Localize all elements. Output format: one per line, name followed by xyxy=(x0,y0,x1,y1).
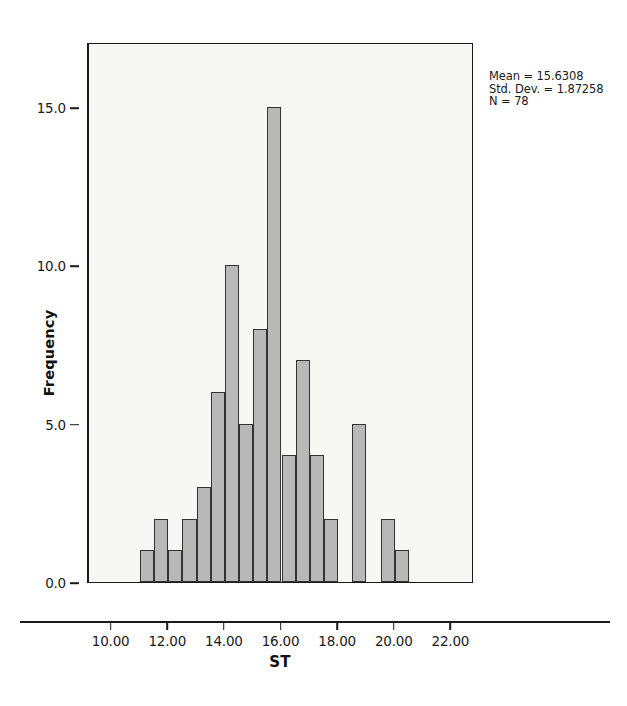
x-tick-label: 10.00 xyxy=(92,633,130,649)
histogram-bar xyxy=(352,424,366,582)
x-tick-label: 18.00 xyxy=(318,633,356,649)
y-tick-label: 5.0 xyxy=(45,417,66,433)
histogram-bar xyxy=(211,392,225,582)
x-tick-mark xyxy=(280,621,282,630)
n-text: N = 78 xyxy=(489,95,604,108)
histogram-bar xyxy=(168,550,182,582)
y-tick-mark xyxy=(70,265,79,267)
histogram-bar xyxy=(282,455,296,582)
x-tick-mark xyxy=(393,621,395,630)
histogram-figure: Frequency 0.05.010.015.0 10.0012.0014.00… xyxy=(0,0,627,706)
x-axis-title: ST xyxy=(0,653,560,671)
histogram-bar xyxy=(253,329,267,582)
histogram-bar xyxy=(140,550,154,582)
y-tick-mark xyxy=(70,582,79,584)
histogram-bar xyxy=(239,424,253,582)
statistics-annotation: Mean = 15.6308 Std. Dev. = 1.87258 N = 7… xyxy=(489,70,604,108)
histogram-bar xyxy=(324,519,338,582)
x-tick-label: 20.00 xyxy=(375,633,413,649)
plot-frame xyxy=(88,43,473,583)
y-axis: 0.05.010.015.0 xyxy=(0,43,88,583)
x-tick-label: 14.00 xyxy=(205,633,243,649)
y-tick-label: 0.0 xyxy=(45,575,66,591)
x-tick-mark xyxy=(223,621,225,630)
x-tick-label: 16.00 xyxy=(262,633,300,649)
y-tick-mark xyxy=(70,424,79,426)
plot-area xyxy=(89,44,472,582)
x-tick-mark xyxy=(166,621,168,630)
histogram-bar xyxy=(182,519,196,582)
y-tick-mark xyxy=(70,107,79,109)
histogram-bar xyxy=(395,550,409,582)
histogram-bar xyxy=(381,519,395,582)
mean-text: Mean = 15.6308 xyxy=(489,70,604,83)
histogram-bar xyxy=(310,455,324,582)
x-tick-mark xyxy=(110,621,112,630)
histogram-bar xyxy=(197,487,211,582)
histogram-bar xyxy=(296,360,310,582)
x-tick-label: 12.00 xyxy=(148,633,186,649)
x-tick-mark xyxy=(450,621,452,630)
x-tick-label: 22.00 xyxy=(432,633,470,649)
x-tick-mark xyxy=(336,621,338,630)
y-tick-label: 10.0 xyxy=(37,258,66,274)
y-tick-label: 15.0 xyxy=(37,100,66,116)
histogram-bar xyxy=(154,519,168,582)
histogram-bar xyxy=(267,107,281,582)
histogram-bar xyxy=(225,265,239,582)
